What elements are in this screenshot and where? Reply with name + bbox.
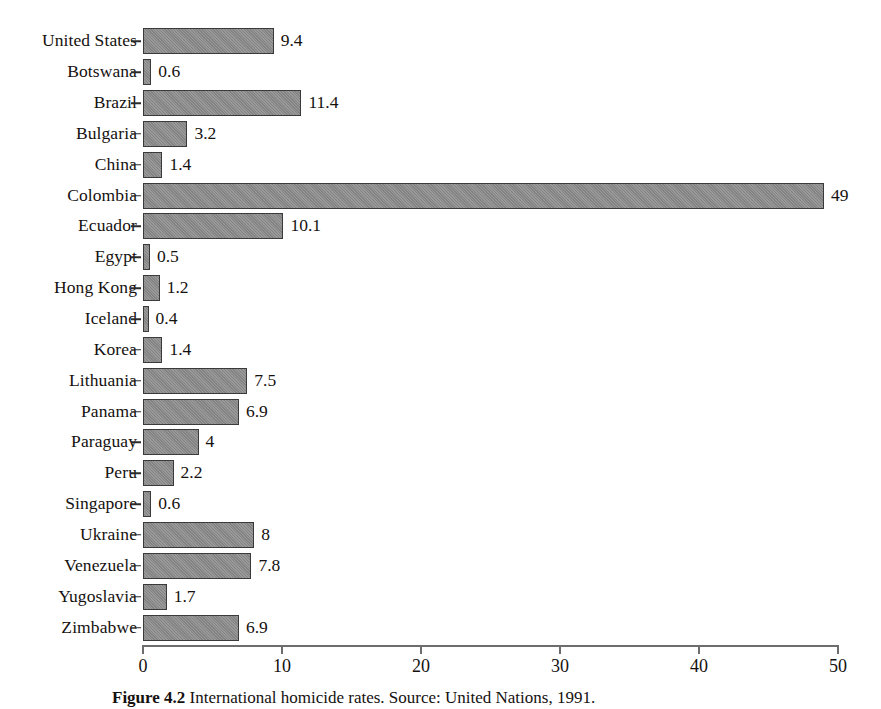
y-axis-tick (131, 349, 141, 351)
category-label: Yugoslavia (58, 588, 137, 606)
y-axis-tick (131, 164, 141, 166)
bar-value-label: 0.6 (158, 63, 180, 81)
bar (143, 213, 283, 239)
bar-value-label: 7.8 (258, 557, 280, 575)
y-axis-tick (131, 318, 141, 320)
bar (143, 306, 149, 332)
bar-row: Brazil11.4 (0, 88, 881, 119)
category-label: Lithuania (69, 372, 137, 390)
bar (143, 275, 160, 301)
category-label: Botswana (67, 63, 137, 81)
bar (143, 90, 301, 116)
bar-value-label: 2.2 (181, 465, 203, 483)
y-axis-tick (131, 473, 141, 475)
x-axis-tick-label: 30 (551, 657, 569, 675)
bar-row: China1.4 (0, 149, 881, 180)
bar (143, 244, 150, 270)
bar (143, 183, 824, 209)
bar-value-label: 4 (206, 434, 215, 452)
bar-row: Iceland0.4 (0, 304, 881, 335)
bar-value-label: 8 (261, 526, 270, 544)
y-axis-tick (131, 102, 141, 104)
y-axis-tick (131, 195, 141, 197)
bar-row: Ecuador10.1 (0, 211, 881, 242)
category-label: Paraguay (71, 434, 137, 452)
y-axis-tick (131, 226, 141, 228)
bar-row: Hong Kong1.2 (0, 273, 881, 304)
bar-value-label: 3.2 (194, 125, 216, 143)
category-label: Venezuela (64, 557, 137, 575)
bar-row: Colombia49 (0, 180, 881, 211)
bar-row: Lithuania7.5 (0, 365, 881, 396)
bar-value-label: 6.9 (246, 619, 268, 637)
x-axis-tick (420, 645, 422, 654)
bar-value-label: 1.4 (169, 341, 191, 359)
y-axis-tick (131, 503, 141, 505)
y-axis-tick (131, 534, 141, 536)
bar (143, 121, 187, 147)
bar-value-label: 49 (831, 187, 849, 205)
y-axis-tick (131, 71, 141, 73)
category-label: Singapore (65, 495, 137, 513)
category-label: Bulgaria (76, 125, 137, 143)
category-label: Hong Kong (54, 279, 137, 297)
bar-value-label: 9.4 (281, 33, 303, 51)
category-label: United States (42, 33, 137, 51)
x-axis-tick-label: 40 (690, 657, 708, 675)
x-axis-tick (281, 645, 283, 654)
bar-value-label: 10.1 (290, 218, 321, 236)
bar (143, 584, 167, 610)
y-axis-tick (131, 565, 141, 567)
bar (143, 522, 254, 548)
figure-caption: Figure 4.2 International homicide rates.… (112, 687, 872, 708)
y-axis-tick (131, 133, 141, 135)
bar-value-label: 0.4 (156, 310, 178, 328)
y-axis-tick (131, 596, 141, 598)
x-axis-tick (837, 645, 839, 654)
bar-value-label: 6.9 (246, 403, 268, 421)
category-label: Panama (81, 403, 137, 421)
category-label: Ecuador (78, 218, 137, 236)
x-axis-tick-label: 20 (412, 657, 430, 675)
category-label: Iceland (85, 310, 137, 328)
bar (143, 59, 151, 85)
bar-row: Panama6.9 (0, 396, 881, 427)
bar-value-label: 1.7 (174, 588, 196, 606)
y-axis-tick (131, 257, 141, 259)
bar (143, 553, 251, 579)
figure-container: United States9.4Botswana0.6Brazil11.4Bul… (0, 0, 881, 709)
y-axis-tick (131, 411, 141, 413)
category-label: Colombia (67, 187, 137, 205)
bar-value-label: 11.4 (308, 94, 338, 112)
bar (143, 399, 239, 425)
x-axis-tick-label: 50 (829, 657, 847, 675)
bar-value-label: 0.6 (158, 495, 180, 513)
figure-caption-text: International homicide rates. Source: Un… (190, 688, 596, 707)
bar-value-label: 0.5 (157, 249, 179, 267)
bar-row: Venezuela7.8 (0, 550, 881, 581)
bar-value-label: 1.2 (167, 279, 189, 297)
bar-row: Peru2.2 (0, 458, 881, 489)
x-axis-tick (142, 645, 144, 654)
x-axis-tick-label: 0 (139, 657, 148, 675)
x-axis-tick (559, 645, 561, 654)
bar (143, 491, 151, 517)
bar (143, 615, 239, 641)
bar-row: Korea1.4 (0, 335, 881, 366)
bar-row: Zimbabwe6.9 (0, 612, 881, 643)
bar-chart-plot-area: United States9.4Botswana0.6Brazil11.4Bul… (0, 0, 881, 709)
bar-value-label: 7.5 (254, 372, 276, 390)
bar-row: Botswana0.6 (0, 57, 881, 88)
bar (143, 152, 162, 178)
bar-row: Egypt0.5 (0, 242, 881, 273)
bar-value-label: 1.4 (169, 156, 191, 174)
bar-row: Ukraine8 (0, 520, 881, 551)
y-axis-tick (131, 442, 141, 444)
bar-row: Paraguay4 (0, 427, 881, 458)
y-axis-tick (131, 287, 141, 289)
bar-row: Yugoslavia1.7 (0, 581, 881, 612)
y-axis-tick (131, 41, 141, 43)
x-axis-tick-label: 10 (273, 657, 291, 675)
x-axis-line (143, 645, 838, 647)
bar-row: Singapore0.6 (0, 489, 881, 520)
